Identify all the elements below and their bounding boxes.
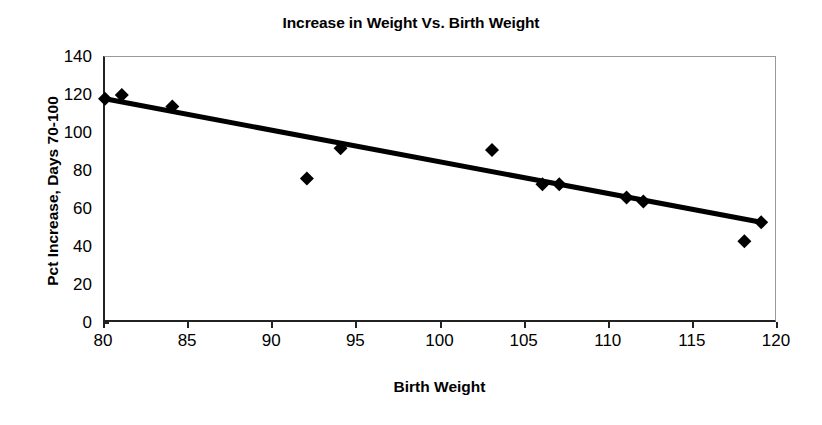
data-point-marker xyxy=(552,177,566,191)
chart-container: Increase in Weight Vs. Birth Weight Pct … xyxy=(0,0,822,425)
x-axis-tick-label: 115 xyxy=(662,332,722,349)
x-axis-tick-label: 100 xyxy=(410,332,470,349)
y-axis-tick-label: 140 xyxy=(40,48,92,65)
y-axis-tick-label: 100 xyxy=(40,124,92,141)
data-point-marker xyxy=(636,194,650,208)
x-axis-tick-label: 105 xyxy=(494,332,554,349)
y-axis-tick-label: 20 xyxy=(40,276,92,293)
trendline xyxy=(105,99,761,223)
trendline-segment xyxy=(105,99,761,223)
x-axis-tick-label: 110 xyxy=(578,332,638,349)
x-axis-tick-label: 95 xyxy=(325,332,385,349)
data-point-marker xyxy=(485,143,499,157)
plot-area xyxy=(103,56,776,322)
y-axis-tick-label: 40 xyxy=(40,238,92,255)
y-axis-tick-label: 80 xyxy=(40,162,92,179)
data-point-marker xyxy=(737,234,751,248)
x-axis-title: Birth Weight xyxy=(103,378,776,396)
data-point-marker xyxy=(98,92,112,106)
data-points xyxy=(98,88,768,248)
data-point-marker xyxy=(754,215,768,229)
y-axis-tick-label: 60 xyxy=(40,200,92,217)
x-axis-tick-label: 120 xyxy=(746,332,806,349)
data-point-marker xyxy=(620,191,634,205)
y-axis-tick-label: 0 xyxy=(40,314,92,331)
x-axis-tick-label: 90 xyxy=(241,332,301,349)
y-axis-tick-labels: 020406080100120140 xyxy=(34,0,92,425)
y-axis-tick-label: 120 xyxy=(40,86,92,103)
data-point-marker xyxy=(300,172,314,186)
x-axis-tick-label: 85 xyxy=(157,332,217,349)
chart-title: Increase in Weight Vs. Birth Weight xyxy=(0,14,822,32)
x-axis-tick-label: 80 xyxy=(73,332,133,349)
plot-svg xyxy=(105,57,778,323)
